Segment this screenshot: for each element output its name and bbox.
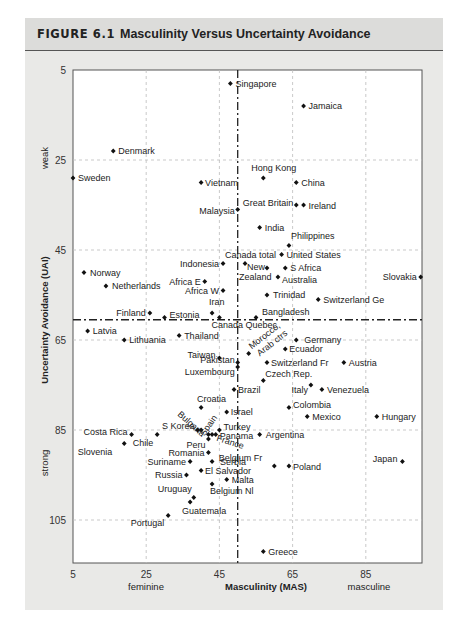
point-label: Russia	[155, 470, 183, 480]
point-label: Hong Kong	[251, 163, 296, 173]
data-point: Colombia	[287, 400, 331, 410]
scatter-chart: 525456585525456585105 SingaporeJamaicaDe…	[0, 0, 459, 635]
point-label: Australia	[282, 275, 317, 285]
data-point: Vietnam	[199, 178, 238, 188]
point-label: Latvia	[93, 326, 117, 336]
data-point: Australia	[276, 275, 317, 285]
point-label: Netherlands	[112, 281, 161, 291]
y-tick-label: 85	[55, 425, 67, 436]
point-label: Hungary	[382, 412, 417, 422]
x-tick-label: 85	[360, 569, 372, 580]
data-point: Switzerland Fr	[265, 358, 329, 368]
point-label: Finland	[116, 308, 146, 318]
y-tick-label: 25	[55, 155, 67, 166]
point-label: Belgium Fr	[219, 453, 263, 463]
point-label: Indonesia	[180, 259, 219, 269]
y-pole-high-label: strong	[39, 450, 50, 476]
point-label: Jamaica	[309, 101, 343, 111]
point-label: Argentina	[266, 430, 305, 440]
y-tick-label: 65	[55, 335, 67, 346]
point-label: Trinidad	[273, 290, 305, 300]
point-label: Switzerland Fr	[271, 358, 329, 368]
point-label: Bangladesh	[262, 307, 310, 317]
point-label: Ecuador	[289, 344, 323, 354]
point-label: New	[247, 262, 266, 272]
point-label: Italy	[291, 385, 308, 395]
point-label: Belgium Nl	[210, 486, 254, 496]
x-tick-label: 25	[141, 569, 153, 580]
point-label: Mexico	[312, 412, 341, 422]
data-point: Lithuania	[122, 335, 166, 345]
data-point: Singapore	[228, 79, 276, 89]
point-label: Pakistan	[200, 355, 235, 365]
point-label: Slovenia	[78, 447, 113, 457]
point-label: Venezuela	[327, 385, 369, 395]
point-label: Canada total	[225, 250, 276, 260]
point-label: Iran	[209, 297, 225, 307]
point-label: Uruguay	[158, 484, 193, 494]
point-label: Croatia	[197, 394, 226, 404]
point-label: Switzerland Ge	[323, 295, 384, 305]
point-label: Estonia	[170, 310, 200, 320]
point-label: Austria	[349, 358, 377, 368]
data-point: United States	[279, 250, 341, 260]
point-label: Poland	[293, 462, 321, 472]
point-label: Brazil	[238, 385, 261, 395]
data-point: S Korea	[162, 421, 200, 432]
data-point: Great Britain	[243, 198, 299, 208]
point-label: Malta	[232, 475, 254, 485]
x-tick-label: 45	[214, 569, 226, 580]
x-pole-high-label: masculine	[348, 581, 391, 592]
point-label: Costa Rica	[84, 427, 128, 437]
point-label: Zealand	[239, 272, 272, 282]
point-label: Vietnam	[205, 178, 238, 188]
point-label: Ireland	[309, 201, 337, 211]
point-label: Israel	[231, 407, 253, 417]
x-pole-low-label: feminine	[128, 581, 164, 592]
point-label: Colombia	[293, 400, 331, 410]
data-point: Malaysia	[199, 206, 240, 216]
data-point: Suriname	[148, 457, 193, 467]
y-tick-label: 5	[60, 65, 66, 76]
point-label: Singapore	[235, 79, 276, 89]
y-pole-low-label: weak	[39, 147, 50, 170]
point-label: Slovakia	[383, 272, 417, 282]
data-point: Pakistan	[200, 355, 240, 365]
data-point: Costa Rica	[84, 427, 134, 437]
point-label: Norway	[90, 268, 121, 278]
data-point: Luxembourg	[185, 365, 240, 377]
point-label: Portugal	[131, 518, 165, 528]
point-label: S Africa	[290, 263, 321, 273]
point-label: S Korea	[162, 421, 195, 431]
point-label: Thailand	[184, 331, 219, 341]
point-label: Luxembourg	[185, 367, 235, 377]
x-tick-label: 65	[287, 569, 299, 580]
point-label: Africa W	[185, 286, 220, 296]
x-tick-label: 5	[70, 569, 76, 580]
data-point: Indonesia	[180, 259, 225, 269]
data-point: Netherlands	[104, 281, 161, 291]
y-tick-label: 105	[49, 515, 66, 526]
point-label: Great Britain	[243, 198, 294, 208]
point-label: Guatemala	[182, 506, 226, 516]
point-label: Japan	[373, 454, 398, 464]
point-label: United States	[287, 250, 342, 260]
data-point: Venezuela	[319, 385, 368, 395]
point-label: Greece	[268, 547, 298, 557]
point-label: Malaysia	[199, 206, 235, 216]
x-axis-title: Masculinity (MAS)	[225, 581, 307, 592]
y-tick-label: 45	[55, 245, 67, 256]
data-point: Denmark	[111, 146, 155, 156]
point-label: Czech Rep.	[265, 369, 312, 379]
point-label: Lithuania	[129, 335, 166, 345]
point-label: India	[265, 223, 285, 233]
data-point: Ecuador	[283, 344, 323, 354]
data-point: Switzerland Ge	[316, 295, 384, 305]
point-label: Chile	[133, 438, 154, 448]
y-axis-title: Uncertainty Avoidance (UAI)	[39, 256, 50, 384]
point-label: Suriname	[148, 457, 187, 467]
point-label: Philippines	[291, 231, 335, 241]
point-label: Sweden	[78, 173, 111, 183]
point-label: Denmark	[118, 146, 155, 156]
point-label: China	[301, 178, 325, 188]
